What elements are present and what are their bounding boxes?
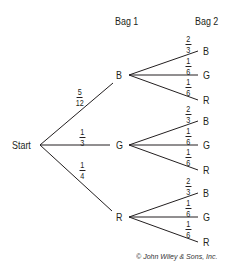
prob-g-r: 1 6 bbox=[186, 148, 192, 167]
header-bag-1: Bag 1 bbox=[115, 15, 138, 27]
node-b-g: G bbox=[203, 69, 210, 81]
node-g-b: B bbox=[203, 115, 209, 127]
prob-start-r: 1 4 bbox=[80, 161, 86, 180]
header-bag-2: Bag 2 bbox=[195, 15, 218, 27]
prob-start-g: 1 3 bbox=[80, 128, 86, 147]
prob-b-g: 1 6 bbox=[186, 57, 192, 76]
node-r-g: G bbox=[203, 211, 210, 223]
node-g-g: G bbox=[203, 139, 210, 151]
node-bag1-g: G bbox=[116, 139, 123, 151]
node-b-b: B bbox=[203, 45, 209, 57]
copyright-notice: © John Wiley & Sons, Inc. bbox=[136, 252, 217, 261]
node-bag1-b: B bbox=[116, 69, 122, 81]
node-r-r: R bbox=[203, 236, 209, 248]
node-r-b: B bbox=[203, 187, 209, 199]
tree-branches bbox=[0, 0, 235, 269]
node-bag1-r: R bbox=[116, 211, 122, 223]
root-node-start: Start bbox=[12, 139, 31, 151]
prob-g-b: 2 3 bbox=[186, 105, 192, 124]
prob-b-b: 2 3 bbox=[186, 35, 192, 54]
node-b-r: R bbox=[203, 94, 209, 106]
branch-start-to-r bbox=[40, 145, 112, 211]
prob-r-g: 1 6 bbox=[186, 199, 192, 218]
prob-r-r: 1 6 bbox=[186, 220, 192, 239]
node-g-r: R bbox=[203, 164, 209, 176]
probability-tree-diagram: Bag 1 Bag 2 Start B G R 5 12 1 3 1 4 B G… bbox=[0, 0, 235, 269]
prob-start-b: 5 12 bbox=[76, 88, 84, 107]
prob-g-g: 1 6 bbox=[186, 127, 192, 146]
prob-r-b: 2 3 bbox=[186, 177, 192, 196]
prob-b-r: 1 6 bbox=[186, 78, 192, 97]
